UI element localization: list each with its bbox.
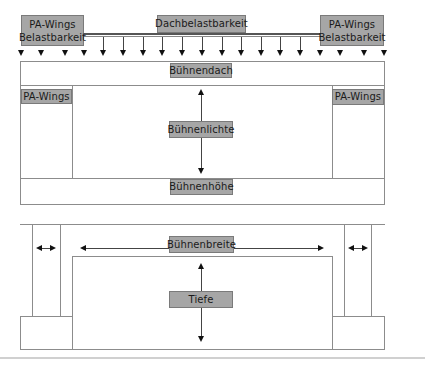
arrow-down-icon: [198, 336, 204, 342]
left-base-block: [20, 316, 73, 350]
label-text: Tiefe: [189, 294, 214, 306]
arrow-up-icon: [198, 263, 204, 269]
arrow-up-icon: [198, 89, 204, 95]
load-arrow-shaft: [222, 37, 223, 51]
arrow-right-icon: [50, 245, 56, 251]
left-tower-inner-right: [60, 224, 61, 317]
label-text: Bühnendach: [169, 65, 233, 77]
load-arrow-shaft: [261, 37, 262, 51]
roof-load-label: Dachbelastbarkeit: [157, 15, 246, 33]
label-text: Bühnenbreite: [167, 239, 236, 251]
right-tower-inner-left: [344, 224, 345, 317]
stage-roof-label: Bühnendach: [170, 63, 232, 78]
load-arrow-shaft: [162, 37, 163, 51]
label-line: Belastbarkeit: [19, 31, 86, 44]
label-line: Belastbarkeit: [318, 31, 385, 44]
wing-left-label: PA-Wings: [21, 89, 72, 104]
arrow-left-icon: [80, 245, 86, 251]
stage-height-label: Bühnenhöhe: [170, 179, 233, 195]
arrow-down-icon: [199, 50, 205, 56]
pa-wings-load-left-label: PA-Wings Belastbarkeit: [21, 15, 84, 46]
arrow-down-icon: [140, 50, 146, 56]
left-tower-inner-left: [32, 224, 33, 317]
arrow-down-icon: [258, 50, 264, 56]
arrow-down-icon: [198, 168, 204, 174]
load-arrow-shaft: [182, 37, 183, 51]
label-text: Bühnenhöhe: [169, 181, 233, 193]
label-text: Dachbelastbarkeit: [155, 18, 248, 30]
arrow-down-icon: [159, 50, 165, 56]
stage-width-label: Bühnenbreite: [169, 236, 234, 253]
load-arrow-shaft: [123, 37, 124, 51]
roof-band-bottom: [20, 85, 385, 86]
wing-right-label: PA-Wings: [332, 89, 384, 105]
arrow-down-icon: [38, 50, 44, 56]
load-arrow-shaft: [202, 37, 203, 51]
right-base-block: [332, 316, 385, 350]
arrow-right-icon: [362, 245, 368, 251]
arrow-down-icon: [277, 50, 283, 56]
arrow-left-icon: [348, 245, 354, 251]
label-line: PA-Wings: [29, 18, 75, 31]
arrow-down-icon: [337, 50, 343, 56]
load-arrow-shaft: [300, 37, 301, 51]
pa-wings-load-right-label: PA-Wings Belastbarkeit: [320, 15, 384, 46]
arrow-down-icon: [381, 50, 387, 56]
load-arrow-shaft: [143, 37, 144, 51]
label-line: PA-Wings: [329, 18, 375, 31]
arrow-down-icon: [219, 50, 225, 56]
clearance-label: Bühnenlichte: [169, 121, 233, 138]
arrow-down-icon: [317, 50, 323, 56]
arrow-down-icon: [361, 50, 367, 56]
load-arrow-shaft: [241, 37, 242, 51]
load-arrow-shaft: [280, 37, 281, 51]
label-text: Bühnenlichte: [167, 124, 234, 136]
arrow-down-icon: [18, 50, 24, 56]
arrow-left-icon: [36, 245, 42, 251]
depth-label: Tiefe: [169, 291, 233, 308]
arrow-down-icon: [179, 50, 185, 56]
rear-line: [20, 224, 385, 225]
label-text: PA-Wings: [335, 91, 381, 103]
wing-left-edge: [72, 85, 73, 179]
arrow-down-icon: [120, 50, 126, 56]
arrow-down-icon: [238, 50, 244, 56]
arrow-down-icon: [62, 50, 68, 56]
right-tower-inner-right: [371, 224, 372, 317]
load-arrow-shaft: [103, 37, 104, 51]
arrow-down-icon: [297, 50, 303, 56]
arrow-down-icon: [81, 50, 87, 56]
arrow-right-icon: [318, 245, 324, 251]
bottom-divider: [0, 357, 425, 359]
label-text: PA-Wings: [23, 91, 69, 103]
arrow-down-icon: [100, 50, 106, 56]
